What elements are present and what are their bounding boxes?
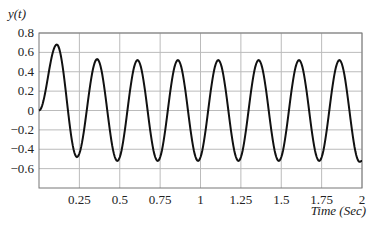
x-tick-label: 1 xyxy=(197,192,204,207)
y-axis-label: y(t) xyxy=(6,6,26,21)
x-tick-label: 0.75 xyxy=(149,192,172,207)
x-tick-label: 0.25 xyxy=(68,192,91,207)
y-tick-label: −0.2 xyxy=(10,122,34,137)
y-tick-label: −0.4 xyxy=(10,141,34,156)
x-tick-label: 1.25 xyxy=(230,192,253,207)
y-tick-label: 0.2 xyxy=(18,83,34,98)
x-tick-label: 0.5 xyxy=(112,192,128,207)
y-tick-label: −0.6 xyxy=(10,161,34,176)
line-chart: 0.80.60.40.20−0.2−0.4−0.6 0.250.50.7511.… xyxy=(0,0,381,232)
y-tick-label: 0.8 xyxy=(18,25,34,40)
y-tick-label: 0.6 xyxy=(18,44,35,59)
x-tick-label: 1.5 xyxy=(273,192,289,207)
y-axis-tick-labels: 0.80.60.40.20−0.2−0.4−0.6 xyxy=(10,25,34,176)
y-tick-label: 0 xyxy=(28,103,35,118)
x-axis-label: Time (Sec) xyxy=(311,203,366,218)
y-tick-label: 0.4 xyxy=(18,64,35,79)
